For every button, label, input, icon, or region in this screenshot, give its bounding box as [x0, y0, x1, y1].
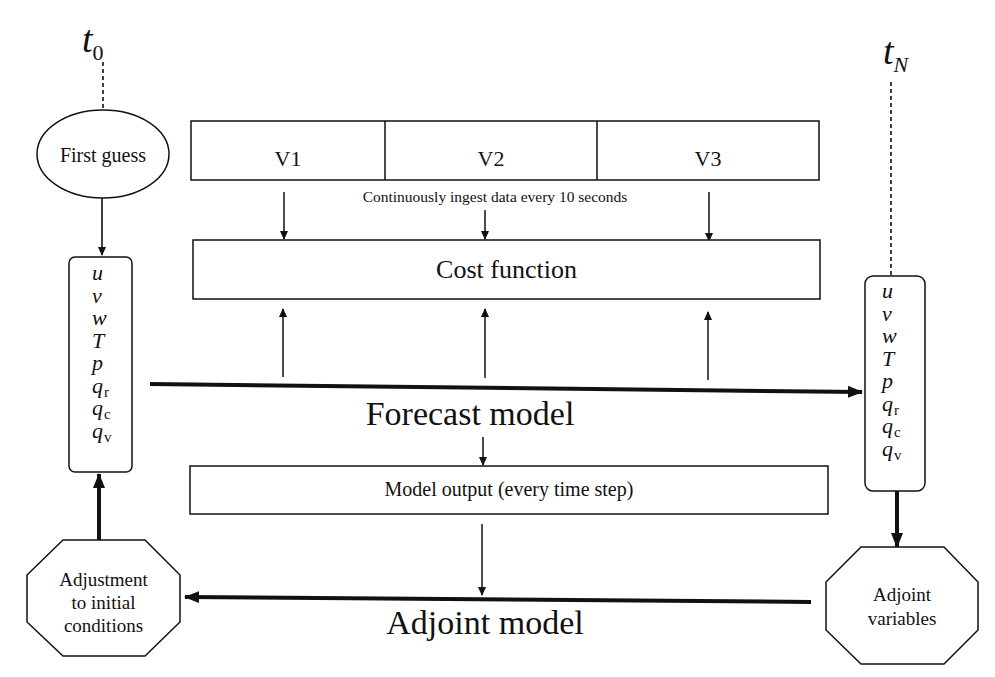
- final-state-variables: u v w T p qr qc qv: [882, 280, 902, 460]
- var-qv: qv: [92, 420, 112, 443]
- initial-state-variables: u v w T p qr qc qv: [92, 262, 112, 442]
- var-t: T: [882, 348, 895, 371]
- first-guess-label: First guess: [43, 145, 163, 165]
- adjustment-label: Adjustment to initial conditions: [27, 568, 180, 637]
- var-p: p: [882, 370, 894, 393]
- var-qr: qr: [92, 375, 109, 398]
- forecast-model-label: Forecast model: [290, 397, 650, 431]
- cost-function-label: Cost function: [193, 257, 820, 283]
- var-w: w: [92, 307, 108, 330]
- adjustment-line-2: to initial: [27, 591, 180, 614]
- adjoint-variables-line-1: Adjoint: [826, 583, 978, 607]
- var-qc: qc: [882, 415, 901, 438]
- adjoint-variables-line-2: variables: [826, 607, 978, 631]
- observation-v1: V1: [191, 146, 385, 172]
- time-end-label: tN: [883, 32, 908, 76]
- var-qc: qc: [92, 397, 111, 420]
- model-output-label: Model output (every time step): [190, 479, 828, 499]
- adjoint-model-label: Adjoint model: [300, 606, 670, 640]
- var-qr: qr: [882, 393, 899, 416]
- var-v: v: [92, 285, 103, 308]
- var-qv: qv: [882, 438, 902, 461]
- time-start-label: t0: [82, 20, 104, 64]
- adjustment-line-1: Adjustment: [27, 568, 180, 591]
- var-p: p: [92, 352, 104, 375]
- var-u: u: [92, 262, 104, 285]
- var-w: w: [882, 325, 898, 348]
- var-v: v: [882, 303, 893, 326]
- adjoint-model-arrow: [185, 597, 811, 602]
- ingest-note: Continuously ingest data every 10 second…: [300, 189, 690, 205]
- var-t: T: [92, 330, 105, 353]
- observation-v2: V2: [385, 146, 597, 172]
- forecast-model-arrow: [150, 384, 862, 392]
- adjoint-variables-label: Adjoint variables: [826, 583, 978, 631]
- observation-v3: V3: [597, 146, 819, 172]
- var-u: u: [882, 280, 894, 303]
- adjustment-line-3: conditions: [27, 614, 180, 637]
